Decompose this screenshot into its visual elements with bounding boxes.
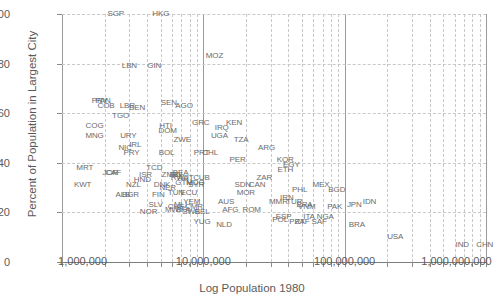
data-point-label: SGP <box>107 10 124 18</box>
data-point-label: MOZ <box>206 52 223 60</box>
data-point-label: MMR <box>269 198 288 206</box>
x-tick <box>387 262 388 267</box>
data-point-label: HKG <box>152 10 169 18</box>
data-point-label: KWT <box>74 181 91 189</box>
y-tick-label: 0 <box>0 257 10 268</box>
gridline-vertical <box>430 14 431 262</box>
gridline-vertical <box>331 14 332 262</box>
data-point-label: JOR <box>103 169 119 177</box>
data-point-label: FIN <box>152 191 165 199</box>
data-point-label: PHL <box>292 186 307 194</box>
scatter-chart: SGPHKGMOZLBNGINPANPRYCOBLBRBENSENAGOTGOC… <box>0 0 504 304</box>
data-point-label: ROM <box>243 206 261 214</box>
y-axis-title: Percent of Population in Largest City <box>26 0 38 254</box>
y-tick <box>57 113 62 114</box>
data-point-label: BGR <box>122 191 139 199</box>
data-point-label: USA <box>387 233 403 241</box>
y-tick-label: 20 <box>0 207 10 218</box>
data-point-label: BRA <box>349 221 365 229</box>
x-axis-title: Log Population 1980 <box>0 282 504 294</box>
data-point-label: POL <box>272 216 288 224</box>
x-tick-label: 100,000,000 <box>314 255 375 267</box>
data-point-label: GIN <box>147 62 161 70</box>
gridline-vertical <box>480 14 481 262</box>
data-point-label: ZWE <box>174 136 191 144</box>
data-point-label: IDN <box>363 198 376 206</box>
data-point-label: AGO <box>175 102 192 110</box>
data-point-label: UGA <box>211 132 228 140</box>
gridline-horizontal <box>62 14 486 15</box>
gridline-vertical <box>105 14 106 262</box>
data-point-label: ZAF <box>295 218 310 226</box>
gridline-horizontal <box>62 212 486 213</box>
data-point-label: NLD <box>216 221 232 229</box>
plot-area: SGPHKGMOZLBNGINPANPRYCOBLBRBENSENAGOTGOC… <box>62 14 486 262</box>
data-point-label: BEA <box>173 169 189 177</box>
data-point-label: COG <box>86 122 104 130</box>
data-point-label: BEN <box>129 104 145 112</box>
x-tick <box>129 262 130 267</box>
data-point-label: ARG <box>258 144 275 152</box>
y-tick-label: 100 <box>0 9 10 20</box>
data-point-label: BEL <box>195 208 210 216</box>
data-point-label: ETH <box>277 166 293 174</box>
data-point-label: PRY <box>123 149 139 157</box>
y-tick <box>57 14 62 15</box>
gridline-vertical <box>472 14 473 262</box>
data-point-label: CAN <box>249 181 266 189</box>
x-tick-label: 1,000,000 <box>58 255 107 267</box>
x-tick <box>412 262 413 267</box>
x-tick <box>161 262 162 267</box>
gridline-vertical <box>387 14 388 262</box>
data-point-label: KEN <box>226 119 242 127</box>
gridline-vertical <box>62 14 63 262</box>
gridline-horizontal <box>62 163 486 164</box>
data-point-label: VNM <box>298 203 315 211</box>
data-point-label: NZL <box>126 181 141 189</box>
gridline-vertical <box>271 14 272 262</box>
data-point-label: PAK <box>327 203 342 211</box>
gridline-vertical <box>464 14 465 262</box>
data-point-label: GRC <box>192 119 209 127</box>
gridline-vertical <box>345 14 346 262</box>
x-tick <box>271 262 272 267</box>
gridline-vertical <box>455 14 456 262</box>
gridline-vertical <box>486 14 487 262</box>
y-tick-label: 80 <box>0 59 10 70</box>
data-point-label: ZAR <box>256 174 272 182</box>
x-tick <box>246 262 247 267</box>
data-point-label: LBN <box>122 62 137 70</box>
data-point-label: IND <box>456 241 469 249</box>
gridline-vertical <box>412 14 413 262</box>
y-tick-label: 40 <box>0 158 10 169</box>
data-point-label: CHL <box>202 149 218 157</box>
x-tick-label: 1,000,000,000 <box>421 255 491 267</box>
data-point-label: MRT <box>76 164 93 172</box>
x-tick-label: 10,000,000 <box>176 255 231 267</box>
data-point-label: AFG <box>222 206 238 214</box>
data-point-label: JPN <box>347 201 362 209</box>
x-tick <box>172 262 173 267</box>
gridline-vertical <box>443 14 444 262</box>
data-point-label: TZA <box>234 136 249 144</box>
data-point-label: YUG <box>194 218 211 226</box>
data-point-label: SAF <box>312 218 327 226</box>
data-point-label: MOR <box>237 189 255 197</box>
data-point-label: BOL <box>159 149 175 157</box>
y-tick <box>57 163 62 164</box>
y-tick-label: 60 <box>0 108 10 119</box>
data-point-label: TGO <box>112 112 129 120</box>
data-point-label: MEX <box>312 181 329 189</box>
gridline-vertical <box>338 14 339 262</box>
y-tick <box>57 212 62 213</box>
data-point-label: BGD <box>328 186 345 194</box>
y-tick <box>57 64 62 65</box>
gridline-vertical <box>147 14 148 262</box>
x-tick <box>288 262 289 267</box>
data-point-label: PER <box>230 156 246 164</box>
data-point-label: NOR <box>140 208 157 216</box>
data-point-label: COB <box>98 102 115 110</box>
data-point-label: MNG <box>85 132 103 140</box>
data-point-label: ECU <box>181 189 198 197</box>
gridline-vertical <box>161 14 162 262</box>
